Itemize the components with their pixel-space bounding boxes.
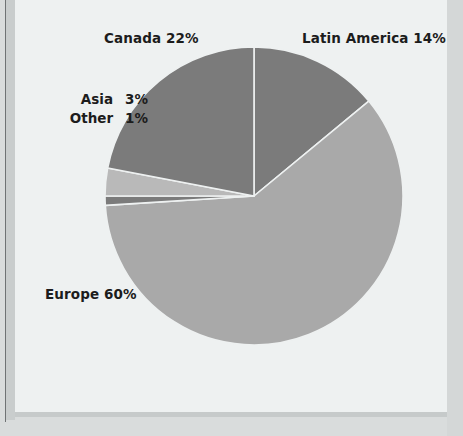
pie-chart-svg [0,0,463,436]
pie-label-latin-america: Latin America 14% [302,30,446,47]
pie-label-asia: Asia 3% [36,90,148,109]
pie-label-stack-small-slices: Asia 3% Other 1% [36,90,148,128]
pie-label-asia-value: 3% [125,90,148,109]
pie-slice-group [105,47,403,345]
pie-chart: Latin America 14% Canada 22% Europe 60% … [0,0,463,436]
pie-label-other-value: 1% [125,109,148,128]
pie-label-asia-name: Asia [81,90,113,109]
pie-label-other: Other 1% [36,109,148,128]
pie-label-other-name: Other [70,109,113,128]
pie-label-europe: Europe 60% [45,286,137,303]
pie-label-canada: Canada 22% [104,30,199,47]
